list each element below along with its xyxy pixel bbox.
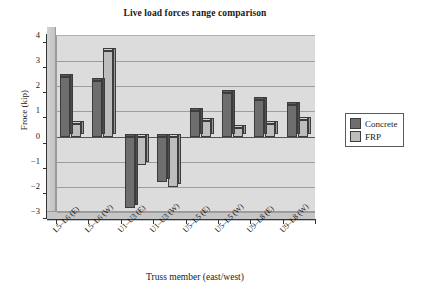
bar-face [60,77,70,136]
chart-title: Live load forces range comparison [60,8,330,18]
y-tick-mark [43,42,47,43]
bar-concrete-7 [287,105,297,136]
y-tick-mark [43,218,47,219]
legend-swatch-icon [350,131,361,142]
legend-label: Concrete [365,119,397,129]
bar-face [157,137,167,182]
gridline-3 [57,61,315,62]
bar-side [135,134,138,206]
bar-side [264,97,267,133]
y-tick-label: 3 [18,56,40,64]
y-tick-label: −3 [18,207,40,215]
x-axis-title: Truss member (east/west) [60,272,330,282]
x-axis-line [47,219,316,220]
bar-side [211,118,214,133]
y-tick-label: 0 [18,132,40,140]
legend-swatch-icon [350,118,361,129]
bar-face [287,105,297,136]
y-tick-mark [43,143,47,144]
bar-side [70,74,73,133]
bar-concrete-5 [222,93,232,137]
y-tick-label: 4 [18,31,40,39]
bar-side [275,121,278,134]
y-tick-label: 1 [18,106,40,114]
bar-concrete-4 [190,111,200,136]
bar-side [200,108,203,133]
bar-face [222,93,232,137]
legend-label: FRP [365,132,381,142]
bar-concrete-3 [157,137,167,182]
y-axis-line [46,34,47,219]
bar-side [232,90,235,134]
bar-concrete-2 [125,137,135,209]
y-tick-mark [43,168,47,169]
bar-side [146,134,149,163]
gridline--1 [57,162,315,163]
gridline-0 [57,137,315,138]
bar-face [190,111,200,136]
bar-concrete-0 [60,77,70,136]
bar-side [81,121,84,134]
bar-side [297,102,300,133]
bar-side [308,117,311,133]
bar-face [92,81,102,136]
bar-side [243,125,246,134]
y-tick-mark [43,193,47,194]
y-tick-mark [43,92,47,93]
bar-side [113,48,116,133]
bar-face [254,100,264,136]
plot-area [47,27,315,219]
plot-back-panel [56,35,315,211]
bar-side [102,78,105,133]
legend-item-frp: FRP [350,130,397,143]
y-tick-mark [43,67,47,68]
gridline--3 [57,212,315,213]
legend: ConcreteFRP [345,113,404,147]
bar-side [167,134,170,179]
bar-concrete-6 [254,100,264,136]
plot-left-wall [47,27,56,211]
y-tick-mark [43,117,47,118]
legend-item-concrete: Concrete [350,117,397,130]
x-tick-mark [315,219,316,224]
y-tick-label: 2 [18,81,40,89]
y-tick-label: −2 [18,182,40,190]
chart-figure: Live load forces range comparison Froce … [0,0,427,296]
gridline--2 [57,187,315,188]
bar-concrete-1 [92,81,102,136]
bar-side [178,134,181,184]
bar-face [125,137,135,209]
y-tick-label: −1 [18,157,40,165]
